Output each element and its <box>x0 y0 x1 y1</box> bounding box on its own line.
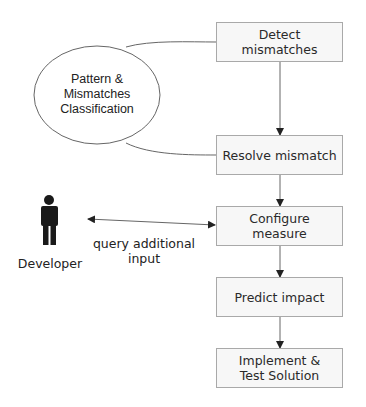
ellipse-to-detect-connector <box>126 42 216 47</box>
step-implement-test-solution: Implement & Test Solution <box>216 348 343 388</box>
step-detect-mismatches: Detect mismatches <box>216 22 343 62</box>
interaction-label: query additional input <box>84 236 204 266</box>
ellipse-to-resolve-connector <box>126 143 216 155</box>
classification-label: Pattern & Mismatches Classification <box>40 72 154 117</box>
developer-label: Developer <box>14 256 86 271</box>
arrow-developer-configure <box>88 219 215 225</box>
person-icon <box>41 195 58 245</box>
step-configure-measure: Configure measure <box>216 206 343 246</box>
step-predict-impact: Predict impact <box>216 277 343 317</box>
step-resolve-mismatch: Resolve mismatch <box>216 135 343 175</box>
